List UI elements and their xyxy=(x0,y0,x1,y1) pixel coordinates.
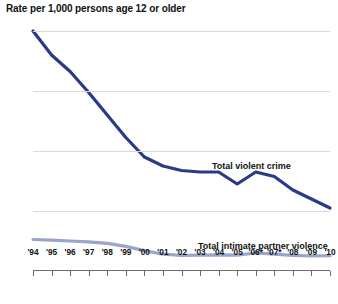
x-tick-mark xyxy=(70,271,71,276)
gridline-80 xyxy=(33,31,330,32)
x-tick-mark xyxy=(237,271,238,276)
x-tick-label: '95 xyxy=(46,247,57,257)
x-tick-mark xyxy=(107,271,108,276)
series-line-total-violent-crime xyxy=(33,31,330,208)
x-tick-mark xyxy=(144,271,145,276)
gridline-60 xyxy=(33,91,330,92)
x-tick-label: '00 xyxy=(139,247,150,257)
chart-container: Rate per 1,000 persons age 12 or older 0… xyxy=(0,0,338,304)
x-tick-label: '96 xyxy=(65,247,76,257)
x-tick-label: '02 xyxy=(176,247,187,257)
x-tick-mark xyxy=(182,271,183,276)
plot-area xyxy=(33,31,330,271)
series-label-violent-crime: Total violent crime xyxy=(212,161,291,171)
x-tick-label: '01 xyxy=(157,247,168,257)
x-tick-label: '98 xyxy=(102,247,113,257)
x-tick-mark xyxy=(163,271,164,276)
x-tick-label: '94 xyxy=(27,247,38,257)
x-tick-mark xyxy=(126,271,127,276)
x-tick-mark xyxy=(200,271,201,276)
series-label-intimate-partner-violence: Total intimate partner violence xyxy=(198,241,328,251)
x-tick-mark xyxy=(330,271,331,276)
x-tick-mark xyxy=(274,271,275,276)
x-tick-mark xyxy=(52,271,53,276)
x-tick-mark xyxy=(219,271,220,276)
x-tick-mark xyxy=(293,271,294,276)
x-tick-mark xyxy=(33,271,34,276)
x-tick-label: '97 xyxy=(83,247,94,257)
x-tick-mark xyxy=(256,271,257,276)
x-tick-mark xyxy=(89,271,90,276)
gridline-40 xyxy=(33,151,330,152)
gridline-20 xyxy=(33,211,330,212)
x-tick-label: '99 xyxy=(120,247,131,257)
chart-title: Rate per 1,000 persons age 12 or older xyxy=(6,3,186,14)
x-tick-mark xyxy=(311,271,312,276)
